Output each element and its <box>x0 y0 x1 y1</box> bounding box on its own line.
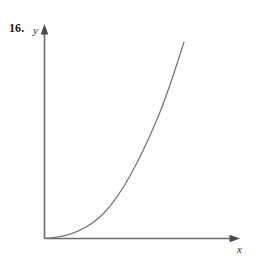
figure-container: 16. y x <box>0 0 263 258</box>
exponential-curve <box>45 42 185 238</box>
axes-group <box>41 24 240 242</box>
y-axis-label: y <box>33 24 38 36</box>
y-axis-arrowhead <box>41 24 49 35</box>
problem-number: 16. <box>9 21 24 35</box>
x-axis-label: x <box>237 243 242 255</box>
x-axis-arrowhead <box>230 235 241 243</box>
graph-canvas <box>0 0 263 258</box>
